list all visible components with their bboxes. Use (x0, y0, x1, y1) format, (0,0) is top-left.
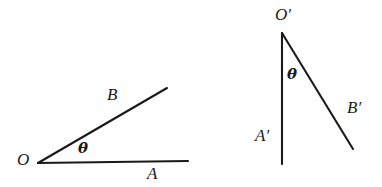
ray-label-A-prime: A′ (255, 127, 269, 144)
angle-diagram-canvas (0, 0, 382, 187)
angle-label-theta: θ (78, 141, 88, 156)
ray-label-B-prime: B′ (347, 99, 361, 116)
ray-B-prime-line (282, 33, 353, 149)
geometry-figure: O B θ A O′ θ A′ B′ (0, 0, 382, 187)
ray-label-A: A (147, 165, 157, 182)
ray-A-line (38, 161, 188, 163)
vertex-label-O: O (17, 151, 29, 168)
angle-label-theta-prime: θ (287, 67, 297, 82)
ray-label-B: B (107, 86, 117, 103)
right-angle-diagram (282, 33, 353, 164)
vertex-label-O-prime: O′ (275, 6, 291, 23)
ray-B-line (38, 88, 167, 163)
